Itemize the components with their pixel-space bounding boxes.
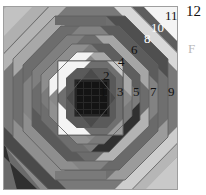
ring-label-1: 1 [100,85,107,98]
side-annotation-letter: F [188,42,195,55]
ring-10-log-n [55,16,106,25]
ring-label-6: 6 [131,43,138,56]
ring-label-8: 8 [144,32,151,45]
ring-label-2: 2 [103,69,110,82]
ring-label-9: 9 [168,85,175,98]
ring-10-log-s [55,171,106,180]
quilt-block-figure: 1 2 3 4 5 6 7 8 9 10 11 12 F [0,0,206,195]
ring-label-7: 7 [150,85,157,98]
ring-label-4: 4 [118,55,125,68]
ring-label-10: 10 [151,21,164,34]
ring-label-3: 3 [117,85,124,98]
ring-label-5: 5 [133,85,140,98]
ring-label-11: 11 [165,9,178,22]
ring-label-12: 12 [186,4,201,19]
